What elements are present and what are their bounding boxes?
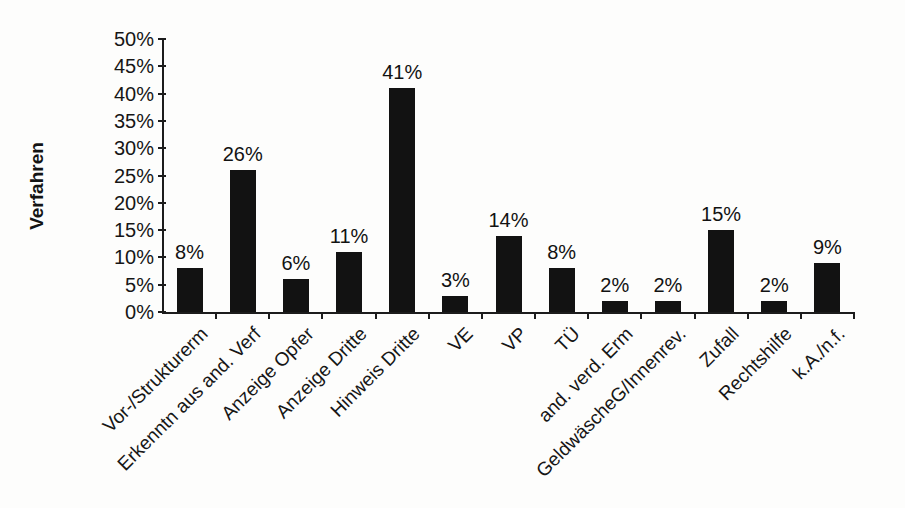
bar: [177, 268, 203, 312]
x-tick-mark: [534, 312, 536, 319]
x-tick-mark: [800, 312, 802, 319]
x-tick-mark: [321, 312, 323, 319]
y-axis-title: Verfahren: [25, 111, 49, 261]
bar: [496, 236, 522, 312]
bar-value-label: 14%: [474, 209, 544, 231]
y-tick-label: 40%: [94, 83, 154, 105]
bar-value-label: 2%: [633, 274, 703, 296]
bar: [708, 230, 734, 312]
x-axis-line: [162, 312, 855, 314]
y-tick-mark: [158, 120, 166, 122]
bar: [389, 88, 415, 312]
bar-value-label: 2%: [739, 274, 809, 296]
y-tick-mark: [158, 93, 166, 95]
x-tick-mark: [640, 312, 642, 319]
bar: [549, 268, 575, 312]
x-tick-mark: [694, 312, 696, 319]
y-tick-mark: [158, 229, 166, 231]
x-tick-mark: [747, 312, 749, 319]
bar-value-label: 6%: [261, 252, 331, 274]
bar-value-label: 8%: [155, 241, 225, 263]
plot-area: Verfahren 0%5%10%15%20%25%30%35%40%45%50…: [0, 0, 905, 508]
bar: [655, 301, 681, 312]
y-tick-mark: [158, 147, 166, 149]
x-tick-mark: [428, 312, 430, 319]
y-tick-label: 20%: [94, 192, 154, 214]
bar: [442, 296, 468, 312]
bar: [761, 301, 787, 312]
bar-value-label: 15%: [686, 203, 756, 225]
y-tick-mark: [158, 311, 166, 313]
bar-value-label: 26%: [208, 143, 278, 165]
y-tick-mark: [158, 175, 166, 177]
y-axis-line: [162, 39, 164, 314]
bar: [336, 252, 362, 312]
bar-value-label: 11%: [314, 225, 384, 247]
y-tick-mark: [158, 38, 166, 40]
y-tick-label: 35%: [94, 110, 154, 132]
y-tick-label: 30%: [94, 137, 154, 159]
y-tick-mark: [158, 284, 166, 286]
bar-value-label: 3%: [420, 269, 490, 291]
x-tick-mark: [587, 312, 589, 319]
bar: [814, 263, 840, 312]
x-tick-mark: [375, 312, 377, 319]
y-tick-mark: [158, 65, 166, 67]
y-tick-mark: [158, 202, 166, 204]
y-tick-label: 5%: [94, 274, 154, 296]
x-tick-mark: [853, 312, 855, 319]
x-tick-mark: [268, 312, 270, 319]
x-tick-mark: [215, 312, 217, 319]
x-tick-mark: [481, 312, 483, 319]
y-tick-label: 0%: [94, 301, 154, 323]
y-tick-label: 10%: [94, 246, 154, 268]
y-tick-label: 50%: [94, 28, 154, 50]
bar-chart: Verfahren 0%5%10%15%20%25%30%35%40%45%50…: [0, 0, 905, 508]
bar-value-label: 8%: [527, 241, 597, 263]
bar-value-label: 9%: [792, 236, 862, 258]
y-tick-label: 15%: [94, 219, 154, 241]
y-tick-label: 25%: [94, 165, 154, 187]
bar: [230, 170, 256, 312]
bar: [602, 301, 628, 312]
bar: [283, 279, 309, 312]
y-tick-label: 45%: [94, 55, 154, 77]
bar-value-label: 41%: [367, 61, 437, 83]
